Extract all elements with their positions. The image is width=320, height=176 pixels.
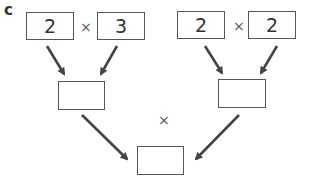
left-factor-b-box: 3 (97, 12, 145, 40)
multiply-sign: × (233, 19, 245, 33)
arrow-icon (47, 46, 64, 74)
right-product-box[interactable] (218, 79, 266, 108)
final-product-box[interactable] (137, 146, 184, 175)
right-factor-b-box: 2 (248, 11, 296, 39)
multiply-sign: × (158, 113, 170, 127)
left-factor-a-box: 2 (26, 12, 74, 40)
multiply-sign: × (80, 20, 92, 34)
left-product-box[interactable] (58, 81, 105, 110)
right-factor-a-box: 2 (177, 11, 225, 39)
arrow-icon (261, 46, 277, 73)
arrow-icon (82, 115, 127, 159)
arrow-icon (196, 115, 239, 159)
arrow-icon (205, 46, 222, 73)
arrow-icon (101, 46, 117, 74)
